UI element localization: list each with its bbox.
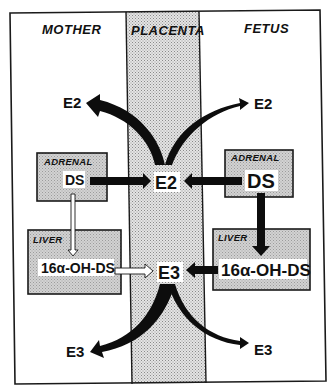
arrow-fetus-ds-to-liver xyxy=(252,193,270,256)
mother-adrenal-label: ADRENAL xyxy=(43,156,93,167)
mother-output-e2: E2 xyxy=(63,94,81,111)
fetus-liver-label: LIVER xyxy=(218,232,247,243)
mother-adrenal-ds: DS xyxy=(65,172,84,188)
estrogen-synthesis-diagram: MOTHER PLACENTA FETUS ADRENAL DS LIVER 1… xyxy=(0,0,333,392)
placenta-e3: E3 xyxy=(158,263,180,283)
mother-liver-16a-oh-ds: 16α-OH-DS xyxy=(41,260,115,276)
column-header-mother: MOTHER xyxy=(42,22,101,37)
fetus-adrenal-label: ADRENAL xyxy=(230,152,280,163)
fetus-output-e2: E2 xyxy=(254,95,272,112)
column-header-fetus: FETUS xyxy=(244,21,289,36)
mother-output-e3: E3 xyxy=(66,343,84,360)
placenta-e2: E2 xyxy=(155,173,177,193)
fetus-liver-16a-oh-ds: 16α-OH-DS xyxy=(221,261,311,280)
column-header-placenta: PLACENTA xyxy=(131,23,205,38)
fetus-adrenal-ds: DS xyxy=(247,170,275,192)
fetus-output-e3: E3 xyxy=(254,341,272,358)
mother-liver-label: LIVER xyxy=(33,234,62,245)
